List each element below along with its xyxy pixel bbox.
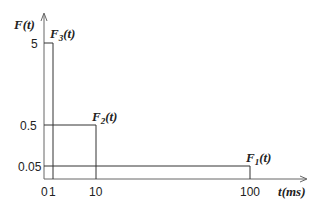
series-f2-pulse — [44, 125, 96, 179]
series-f3-pulse — [44, 43, 53, 179]
chart: F(t) 5 0.5 0.05 0 1 10 100 t(ms) F3(t) F… — [0, 0, 322, 204]
y-axis-label: F(t) — [13, 17, 35, 32]
series-f1-pulse — [44, 166, 250, 179]
x-tick-1: 1 — [49, 185, 56, 199]
series-f3-label: F3(t) — [49, 26, 75, 43]
x-tick-100: 100 — [240, 185, 260, 199]
y-tick-0.05: 0.05 — [18, 160, 42, 174]
series-f2-label: F2(t) — [91, 109, 117, 126]
x-axis-label: t(ms) — [278, 184, 305, 199]
y-tick-0.5: 0.5 — [20, 119, 37, 133]
x-tick-0: 0 — [41, 185, 48, 199]
y-tick-5: 5 — [31, 37, 38, 51]
x-tick-10: 10 — [89, 185, 103, 199]
series-f1-label: F1(t) — [245, 150, 271, 167]
